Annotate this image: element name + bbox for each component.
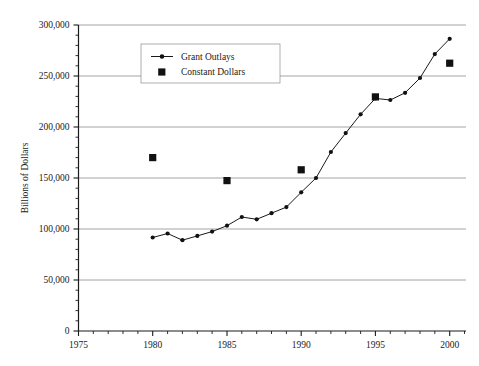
y-tick-label-0: 0	[65, 326, 70, 336]
x-tick-label-1975: 1975	[69, 340, 88, 350]
legend-marker-constant-dollars	[158, 68, 165, 75]
data-point-marker	[359, 112, 363, 116]
data-point-marker	[284, 205, 288, 209]
data-point-marker	[166, 231, 170, 235]
y-tick-label-100000: 100,000	[39, 224, 70, 234]
y-tick-label-150000: 150,000	[39, 173, 70, 183]
x-tick-label-1980: 1980	[143, 340, 162, 350]
chart-legend: Grant OutlaysConstant Dollars	[141, 44, 280, 83]
data-point-marker	[180, 238, 184, 242]
legend-label-grant-outlays: Grant Outlays	[181, 52, 235, 62]
data-point-marker	[151, 235, 155, 239]
x-tick-label-1990: 1990	[292, 340, 311, 350]
data-point-marker	[223, 177, 230, 184]
y-tick-label-300000: 300,000	[39, 20, 70, 30]
data-point-marker	[210, 230, 214, 234]
data-point-marker	[388, 98, 392, 102]
data-point-marker	[195, 234, 199, 238]
data-point-marker	[372, 93, 379, 100]
x-tick-label-1985: 1985	[218, 340, 237, 350]
data-point-marker	[225, 224, 229, 228]
data-point-marker	[446, 60, 453, 67]
x-axis-ticks-group	[79, 331, 465, 336]
data-point-marker	[255, 217, 259, 221]
data-point-marker	[269, 211, 273, 215]
data-point-marker	[149, 154, 156, 161]
y-tick-label-50000: 50,000	[43, 275, 69, 285]
y-axis-title: Billions of Dollars	[20, 142, 30, 213]
y-tick-label-250000: 250,000	[39, 71, 70, 81]
data-point-marker	[448, 37, 452, 41]
data-point-marker	[299, 190, 303, 194]
data-point-marker	[240, 215, 244, 219]
x-tick-label-1995: 1995	[366, 340, 385, 350]
y-axis-ticks-group	[74, 25, 79, 331]
data-point-marker	[403, 91, 407, 95]
line-chart: 050,000100,000150,000200,000250,000300,0…	[0, 0, 479, 366]
data-point-marker	[329, 150, 333, 154]
legend-label-constant-dollars: Constant Dollars	[181, 67, 245, 77]
y-axis-tick-labels-group: 050,000100,000150,000200,000250,000300,0…	[39, 20, 70, 336]
chart-container: 050,000100,000150,000200,000250,000300,0…	[0, 0, 479, 366]
data-point-marker	[344, 131, 348, 135]
legend-marker-grant-outlays	[160, 54, 165, 59]
x-axis-tick-labels-group: 197519801985199019952000	[69, 340, 459, 350]
x-tick-label-2000: 2000	[440, 340, 459, 350]
data-point-marker	[298, 166, 305, 173]
y-tick-label-200000: 200,000	[39, 122, 70, 132]
data-point-marker	[314, 176, 318, 180]
data-point-marker	[418, 76, 422, 80]
data-point-marker	[433, 52, 437, 56]
